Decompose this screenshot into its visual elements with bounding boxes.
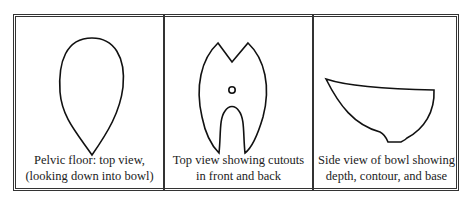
caption-line: in front and back (165, 168, 312, 184)
panel-pelvic-floor-top: Pelvic floor: top view, (looking down in… (16, 17, 163, 188)
panel-caption: Pelvic floor: top view, (looking down in… (16, 152, 163, 184)
caption-line: Side view of bowl showing (314, 152, 459, 168)
caption-line: (looking down into bowl) (16, 168, 163, 184)
panel-caption: Side view of bowl showing depth, contour… (314, 152, 459, 184)
panel-bowl-side: Side view of bowl showing depth, contour… (314, 17, 459, 188)
panel-caption: Top view showing cutouts in front and ba… (165, 152, 312, 184)
panel-cutouts-top: Top view showing cutouts in front and ba… (165, 17, 312, 188)
caption-line: Pelvic floor: top view, (16, 152, 163, 168)
caption-line: Top view showing cutouts (165, 152, 312, 168)
caption-line: depth, contour, and base (314, 168, 459, 184)
